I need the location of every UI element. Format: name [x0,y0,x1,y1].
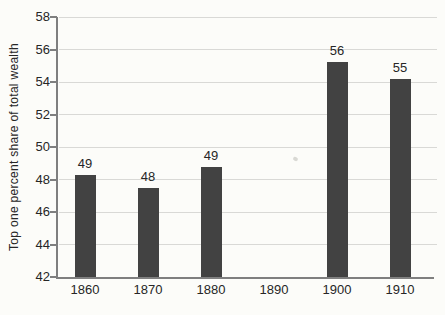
y-tick-mark-54 [50,81,57,83]
y-tick-mark-46 [50,211,57,213]
gridline-y-46 [59,212,437,213]
bar-1910 [390,79,411,277]
y-tick-mark-48 [50,179,57,181]
y-tick-mark-50 [50,146,57,148]
bar-value-label-1900: 56 [317,43,357,59]
y-tick-label-46: 46 [16,204,50,220]
bar-1900 [327,62,348,277]
y-tick-label-50: 50 [16,139,50,155]
scan-artifact-speck [292,156,298,162]
x-tick-label-1880: 1880 [186,282,236,298]
y-tick-label-42: 42 [16,269,50,285]
x-tick-label-1870: 1870 [123,282,173,298]
bar-value-label-1880: 49 [191,148,231,164]
x-tick-label-1910: 1910 [375,282,425,298]
bar-value-label-1860: 49 [65,156,105,172]
gridline-y-54 [59,82,437,83]
y-tick-mark-52 [50,114,57,116]
gridline-y-50 [59,147,437,148]
y-tick-mark-42 [50,276,57,278]
gridline-y-48 [59,179,437,180]
y-tick-mark-44 [50,244,57,246]
y-tick-mark-58 [50,16,57,18]
gridline-y-44 [59,244,437,245]
bar-value-label-1910: 55 [380,60,420,76]
y-tick-label-52: 52 [16,107,50,123]
y-tick-label-54: 54 [16,74,50,90]
y-tick-label-48: 48 [16,172,50,188]
x-axis-line [56,277,434,279]
y-tick-label-44: 44 [16,237,50,253]
bar-value-label-1870: 48 [128,169,168,185]
plot-area: 4948495655 [57,17,437,277]
wealth-share-bar-chart: Top one percent share of total wealth 49… [0,0,445,315]
gridline-y-56 [59,49,437,50]
bar-1870 [138,188,159,277]
y-tick-label-56: 56 [16,42,50,58]
x-tick-label-1860: 1860 [60,282,110,298]
bar-1880 [201,167,222,277]
gridline-y-52 [59,114,437,115]
gridline-y-58 [59,17,437,18]
x-tick-label-1900: 1900 [312,282,362,298]
y-tick-label-58: 58 [16,9,50,25]
x-tick-label-1890: 1890 [249,282,299,298]
bar-1860 [75,175,96,277]
y-tick-mark-56 [50,49,57,51]
